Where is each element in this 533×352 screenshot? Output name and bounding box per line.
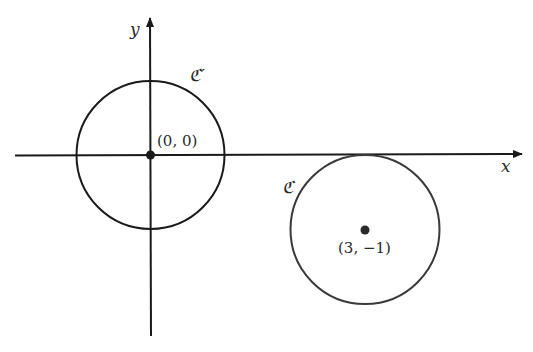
center-c-label: (3, −1) bbox=[338, 239, 391, 257]
x-axis-label: x bbox=[501, 156, 511, 176]
origin-point bbox=[146, 151, 155, 160]
circle-c-label: ℭ bbox=[282, 177, 296, 197]
x-axis bbox=[15, 154, 522, 156]
center-point-c bbox=[361, 226, 370, 235]
y-axis-label: y bbox=[129, 19, 140, 39]
origin-label: (0, 0) bbox=[157, 132, 197, 150]
coordinate-diagram: y x ℭ′ (0, 0) ℭ (3, −1) bbox=[0, 0, 533, 352]
circle-c-prime-label: ℭ′ bbox=[189, 65, 205, 85]
y-axis bbox=[150, 18, 151, 336]
